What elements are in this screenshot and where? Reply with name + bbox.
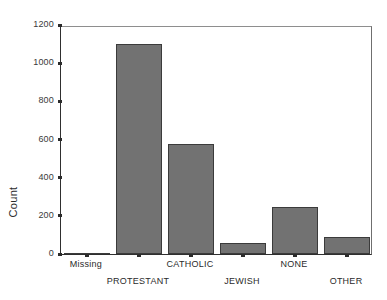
bar[interactable] [220,243,267,254]
x-axis-tick-mark [293,254,297,257]
x-axis-tick-mark [241,254,245,257]
y-axis-tick-label: 400 [38,172,54,182]
y-axis-tick-label: 200 [38,210,54,220]
x-axis-label: CATHOLIC [167,259,214,269]
x-axis-label: NONE [280,259,307,269]
y-axis-title: Count [7,167,19,237]
bars-layer [61,27,371,254]
y-axis-tick-label: 600 [38,134,54,144]
plot-area: 020040060080010001200 [60,26,372,255]
x-axis-label: JEWISH [224,276,260,286]
x-axis-tick-mark [85,254,89,257]
bar[interactable] [116,44,163,254]
bar[interactable] [272,207,319,254]
x-axis-label: PROTESTANT [107,276,169,286]
x-axis-tick-mark [189,254,193,257]
y-axis-tick-label: 1000 [33,57,54,67]
x-axis-label: Missing [70,259,102,269]
x-axis-label: OTHER [330,276,363,286]
bar-chart: Count 020040060080010001200 MissingPROTE… [0,0,387,300]
x-axis-tick-mark [137,254,141,257]
bar[interactable] [168,144,215,254]
y-axis-tick-label: 1200 [33,19,54,29]
y-axis-tick-label: 800 [38,95,54,105]
x-axis-tick-mark [345,254,349,257]
y-axis-tick-label: 0 [49,248,54,258]
bar[interactable] [324,237,371,254]
